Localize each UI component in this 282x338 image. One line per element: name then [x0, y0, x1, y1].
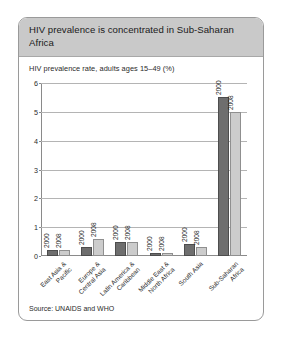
- y-axis-tick-mark: [39, 112, 41, 113]
- y-axis-tick-label: 5: [34, 107, 38, 116]
- source-note: Source: UNAIDS and WHO: [29, 305, 114, 312]
- bar-year-label: 2000: [146, 236, 153, 254]
- y-axis-tick-mark: [39, 141, 41, 142]
- y-axis-tick-label: 6: [34, 79, 38, 88]
- bar: 2008: [230, 112, 241, 256]
- x-axis-category-label: Latin America & Caribbean: [99, 260, 142, 303]
- gridline: [41, 170, 247, 171]
- chart-title: HIV prevalence is concentrated in Sub-Sa…: [29, 24, 255, 49]
- y-axis-tick-mark: [39, 83, 41, 84]
- bar-year-label: 2000: [215, 81, 222, 99]
- bar-year-label: 2000: [112, 225, 119, 243]
- bar: 2008: [127, 242, 138, 256]
- bar-year-label: 2008: [90, 222, 97, 240]
- bar-year-label: 2008: [193, 231, 200, 249]
- gridline: [41, 141, 247, 142]
- bar-year-label: 2000: [181, 228, 188, 246]
- chart-card: HIV prevalence is concentrated in Sub-Sa…: [18, 17, 264, 321]
- bar: 2008: [59, 250, 70, 256]
- gridline: [41, 227, 247, 228]
- bar-year-label: 2000: [78, 231, 85, 249]
- y-axis-tick-label: 0: [34, 252, 38, 261]
- bar: 2000: [47, 250, 58, 256]
- y-axis-tick-mark: [39, 170, 41, 171]
- bar: 2000: [218, 97, 229, 256]
- bar-year-label: 2008: [158, 236, 165, 254]
- chart-subtitle: HIV prevalence rate, adults ages 15–49 (…: [29, 64, 174, 73]
- bar-year-label: 2008: [227, 95, 234, 113]
- bar-year-label: 2008: [55, 234, 62, 252]
- x-axis-category-label: East Asia & Pacific: [39, 260, 73, 294]
- bar-year-label: 2008: [124, 225, 131, 243]
- x-axis-category-label: Sub-Saharan Africa: [207, 260, 245, 298]
- y-axis-tick-label: 4: [34, 136, 38, 145]
- gridline: [41, 112, 247, 113]
- bar: 2000: [115, 242, 126, 256]
- gridline: [41, 198, 247, 199]
- plot-area: 0123456 20002008200020082000200820002008…: [41, 83, 247, 256]
- bar: 2008: [93, 239, 104, 256]
- y-axis-tick-mark: [39, 227, 41, 228]
- y-axis-tick-label: 3: [34, 165, 38, 174]
- x-axis-category-label: South Asia: [178, 260, 205, 287]
- bar: 2000: [81, 247, 92, 256]
- y-axis-tick-mark: [39, 256, 41, 257]
- y-axis-tick-mark: [39, 198, 41, 199]
- y-axis-tick-label: 1: [34, 223, 38, 232]
- x-axis-category-label: Middle East & North Africa: [137, 260, 176, 299]
- y-axis-tick-label: 2: [34, 194, 38, 203]
- bar: 2008: [162, 253, 173, 256]
- bar-year-label: 2000: [43, 234, 50, 252]
- bar: 2008: [196, 247, 207, 256]
